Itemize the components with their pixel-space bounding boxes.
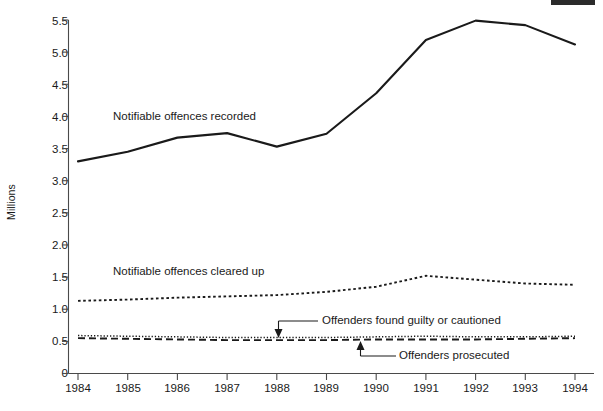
arrow-up-icon: [357, 341, 365, 350]
series-line-notifiable-offences-recorded: [78, 21, 575, 162]
plot-area: [0, 0, 603, 411]
series-label-prosecuted: Offenders prosecuted: [399, 349, 509, 361]
y-axis-ticks: [62, 20, 69, 374]
x-axis-ticks: [78, 374, 575, 381]
data-series-group: [78, 21, 575, 340]
series-line-offenders-prosecuted: [78, 338, 575, 340]
series-label-cleared-up: Notifiable offences cleared up: [113, 265, 264, 277]
arrow-down-icon: [275, 329, 283, 338]
chart-container: Millions 0 0.5 1.0 1.5 2.0 2.5 3.0 3.5 4…: [0, 0, 603, 411]
series-line-notifiable-offences-cleared-up: [78, 276, 575, 301]
series-label-recorded: Notifiable offences recorded: [113, 110, 256, 122]
series-label-guilty-cautioned: Offenders found guilty or cautioned: [322, 314, 501, 326]
series-line-offenders-found-guilty-or-cautioned: [78, 336, 575, 338]
